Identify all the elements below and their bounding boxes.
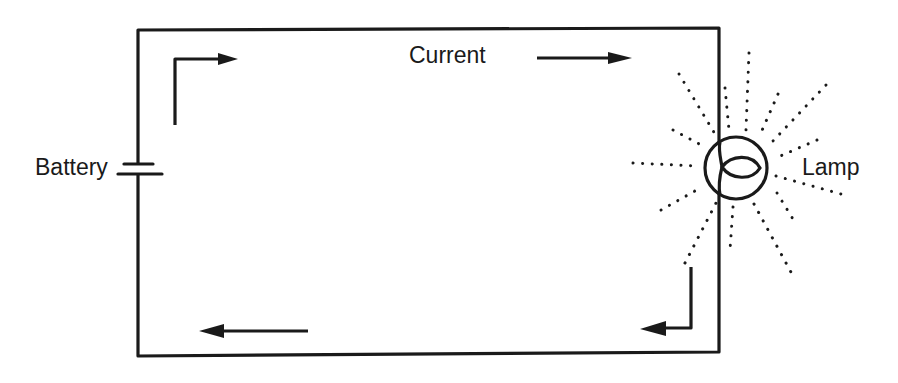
current-label: Current xyxy=(409,44,486,67)
current-arrow-bottom-right xyxy=(640,267,691,336)
lamp-icon xyxy=(705,137,767,199)
battery-icon xyxy=(118,164,162,174)
current-arrow-top-left xyxy=(175,53,238,125)
current-arrow-bottom-left xyxy=(199,324,308,338)
circuit-wire xyxy=(138,28,719,356)
lamp-label: Lamp xyxy=(802,156,860,179)
battery-label: Battery xyxy=(35,156,108,179)
current-arrow-top xyxy=(537,52,632,64)
circuit-diagram: Current Battery Lamp xyxy=(0,0,898,383)
